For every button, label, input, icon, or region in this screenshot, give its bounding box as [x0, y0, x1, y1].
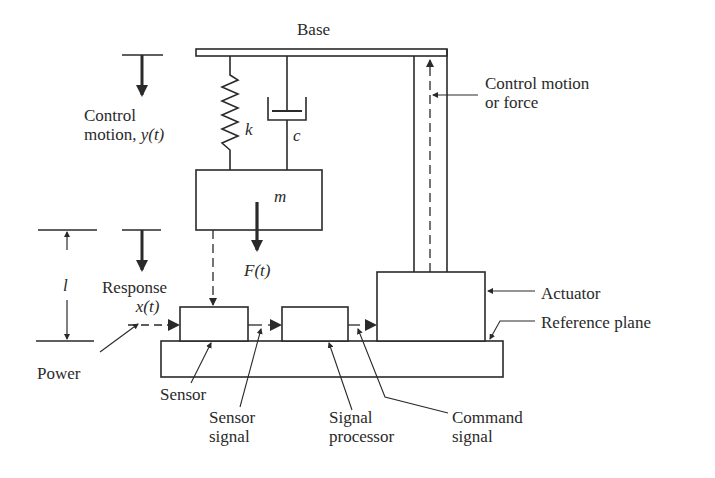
- label-control-motion-line1: Control: [84, 106, 136, 125]
- label-power: Power: [37, 364, 80, 383]
- label-actuator: Actuator: [541, 284, 600, 303]
- label-signal-processor-line1: Signal: [329, 408, 372, 427]
- label-base: Base: [297, 20, 330, 39]
- label-signal-processor-line2: processor: [329, 427, 394, 446]
- damper-c: [268, 56, 306, 170]
- label-control-motion-line2: motion,: [84, 125, 141, 144]
- response-arrow: [122, 230, 161, 270]
- actuator-pillar: [414, 49, 447, 272]
- label-spring-k: k: [245, 120, 253, 139]
- label-control-force: Control motion or force: [485, 74, 589, 112]
- leader-reference-plane: [490, 321, 535, 339]
- label-sensor-signal: Sensor signal: [209, 408, 255, 446]
- base-bar: [196, 49, 447, 56]
- leader-power: [100, 324, 138, 352]
- label-control-force-line1: Control motion: [485, 74, 589, 93]
- actuator-box: [377, 272, 485, 341]
- label-signal-processor: Signal processor: [329, 408, 394, 446]
- label-sensor-signal-line2: signal: [209, 427, 250, 446]
- label-response-line1: Response: [102, 278, 167, 297]
- label-sensor-signal-line1: Sensor: [209, 408, 255, 427]
- vibration-control-diagram: [0, 0, 715, 478]
- label-reference-plane: Reference plane: [541, 313, 651, 332]
- label-damper-c: c: [293, 126, 301, 145]
- label-response: Response x(t): [102, 278, 167, 316]
- label-control-motion: Control motion, y(t): [84, 106, 164, 144]
- label-command-signal-line1: Command: [452, 408, 523, 427]
- spring-k: [222, 56, 238, 170]
- control-motion-arrow: [122, 55, 163, 95]
- label-control-force-line2: or force: [485, 93, 538, 112]
- label-length-l: l: [63, 276, 68, 295]
- label-control-motion-var: y(t): [141, 125, 165, 144]
- label-mass-m: m: [274, 187, 286, 206]
- mass-block: [196, 170, 322, 230]
- label-force: F(t): [244, 261, 270, 280]
- sensor-box: [180, 307, 248, 341]
- label-command-signal-line2: signal: [452, 427, 493, 446]
- reference-plate: [161, 341, 503, 377]
- label-response-var: x(t): [110, 297, 160, 316]
- label-command-signal: Command signal: [452, 408, 523, 446]
- signal-processor-box: [282, 307, 348, 341]
- label-sensor: Sensor: [160, 385, 206, 404]
